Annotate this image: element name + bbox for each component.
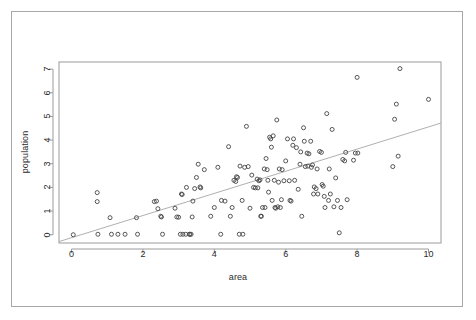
scatter-point: [300, 214, 304, 218]
scatter-point: [330, 127, 334, 131]
scatter-point: [227, 145, 231, 149]
scatter-point: [277, 180, 281, 184]
scatter-point: [278, 206, 282, 210]
scatter-point: [302, 126, 306, 130]
x-tick-label: 10: [423, 249, 433, 259]
scatter-point: [335, 198, 339, 202]
scatter-point: [356, 151, 360, 155]
scatter-point: [270, 198, 274, 202]
scatter-point: [116, 232, 120, 236]
y-tick-label: 1: [42, 209, 52, 214]
scatter-point: [302, 139, 306, 143]
trend-line-segment: [59, 123, 441, 242]
scatter-point: [393, 117, 397, 121]
scatter-point: [345, 198, 349, 202]
regression-line: [59, 123, 441, 242]
scatter-point: [355, 75, 359, 79]
scatter-point: [287, 179, 291, 183]
plot-frame-rect: [59, 62, 441, 243]
scatter-point: [327, 167, 331, 171]
scatter-point: [95, 191, 99, 195]
scatter-point: [184, 185, 188, 189]
figure-container: area population 0246810 01234567: [0, 0, 476, 320]
y-tick-label: 5: [42, 114, 52, 119]
scatter-point: [244, 124, 248, 128]
y-tick-label: 0: [42, 232, 52, 237]
scatter-point: [337, 231, 341, 235]
data-points: [71, 67, 430, 237]
scatter-point: [284, 159, 288, 163]
scatter-point: [309, 139, 313, 143]
scatter-point: [263, 206, 267, 210]
scatter-point: [271, 134, 275, 138]
y-tick-label: 4: [42, 138, 52, 143]
scatter-point: [96, 232, 100, 236]
scatter-point: [315, 167, 319, 171]
scatter-point: [266, 178, 270, 182]
scatter-point: [212, 206, 216, 210]
scatter-point: [391, 165, 395, 169]
scatter-point: [216, 165, 220, 169]
scatter-point: [396, 154, 400, 158]
scatter-point: [312, 192, 316, 196]
scatter-point: [109, 232, 113, 236]
scatter-point: [275, 118, 279, 122]
scatter-point: [332, 205, 336, 209]
scatter-point: [190, 215, 194, 219]
scatter-point: [95, 200, 99, 204]
y-tick-label: 7: [42, 67, 52, 72]
x-tick-label: 4: [212, 249, 217, 259]
scatter-point: [123, 232, 127, 236]
x-tick-label: 8: [355, 249, 360, 259]
scatter-point: [196, 162, 200, 166]
scatter-point: [264, 157, 268, 161]
scatter-point: [136, 232, 140, 236]
scatter-point: [327, 198, 331, 202]
scatter-point: [279, 198, 283, 202]
y-tick-label: 6: [42, 90, 52, 95]
scatter-point: [282, 179, 286, 183]
x-tick-label: 2: [140, 249, 145, 259]
scatter-point: [250, 173, 254, 177]
scatter-point: [293, 178, 297, 182]
scatter-point: [240, 198, 244, 202]
scatter-point: [394, 102, 398, 106]
scatter-point: [267, 190, 271, 194]
y-axis-title: population: [20, 131, 30, 174]
scatter-point: [209, 214, 213, 218]
scatter-point: [296, 187, 300, 191]
scatter-point: [202, 168, 206, 172]
scatter-point: [230, 206, 234, 210]
scatter-point: [194, 175, 198, 179]
scatter-point: [193, 187, 197, 191]
scatter-point: [272, 178, 276, 182]
scatter-point: [323, 206, 327, 210]
scatter-point: [325, 112, 329, 116]
scatter-point: [299, 150, 303, 154]
scatter-point: [108, 216, 112, 220]
scatter-point: [334, 176, 338, 180]
scatter-point: [256, 186, 260, 190]
scatter-point: [294, 146, 298, 150]
x-axis-title: area: [0, 272, 476, 282]
scatter-point: [156, 207, 160, 211]
scatter-point: [316, 192, 320, 196]
scatter-point: [292, 137, 296, 141]
scatter-point: [219, 232, 223, 236]
x-tick-label: 0: [69, 249, 74, 259]
y-tick-label: 3: [42, 161, 52, 166]
axis-lines-and-ticks: [49, 69, 429, 253]
plot-frame: [59, 62, 441, 243]
scatter-point: [298, 162, 302, 166]
scatter-point: [161, 232, 165, 236]
scatter-point: [328, 192, 332, 196]
scatter-point: [322, 194, 326, 198]
scatter-point: [238, 164, 242, 168]
scatter-point: [352, 158, 356, 162]
scatter-point: [248, 206, 252, 210]
scatter-point: [427, 97, 431, 101]
y-tick-label: 2: [42, 185, 52, 190]
x-tick-label: 6: [283, 249, 288, 259]
scatter-point: [339, 206, 343, 210]
scatter-point: [173, 206, 177, 210]
